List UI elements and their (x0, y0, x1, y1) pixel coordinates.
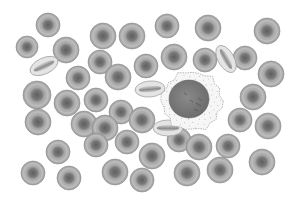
red-blood-cell (155, 14, 179, 38)
red-blood-cell (57, 166, 81, 190)
red-blood-cell (54, 90, 80, 116)
red-blood-cell (228, 108, 252, 132)
red-blood-cell (102, 159, 128, 185)
red-blood-cell (66, 66, 90, 90)
red-blood-cell (90, 23, 116, 49)
red-blood-cell (23, 81, 51, 109)
cells-canvas (0, 0, 298, 204)
red-blood-cell (84, 133, 108, 157)
red-blood-cell (161, 44, 187, 70)
red-blood-cell (254, 18, 280, 44)
red-blood-cell (25, 109, 51, 135)
red-blood-cell (130, 168, 154, 192)
red-blood-cell (258, 61, 284, 87)
red-blood-cell (115, 130, 139, 154)
red-blood-cell (233, 46, 257, 70)
red-blood-cell (105, 64, 131, 90)
red-blood-cell (139, 143, 165, 169)
blood-cells-illustration (0, 0, 298, 204)
red-blood-cell-side (134, 80, 165, 99)
red-blood-cell (174, 160, 200, 186)
red-blood-cell (134, 54, 158, 78)
red-blood-cell (119, 23, 145, 49)
red-blood-cell (36, 13, 60, 37)
red-blood-cell (84, 88, 108, 112)
red-blood-cell (129, 107, 155, 133)
red-blood-cell (249, 149, 275, 175)
red-blood-cell (193, 48, 217, 72)
red-blood-cell (255, 113, 281, 139)
red-blood-cell (240, 84, 266, 110)
red-blood-cell (16, 36, 38, 58)
red-blood-cells (16, 13, 284, 192)
wbc-nucleus (169, 80, 209, 118)
red-blood-cell (21, 161, 45, 185)
red-blood-cell (195, 15, 221, 41)
red-blood-cell (186, 134, 212, 160)
red-blood-cell (216, 134, 240, 158)
red-blood-cell (207, 157, 233, 183)
red-blood-cell (46, 140, 70, 164)
